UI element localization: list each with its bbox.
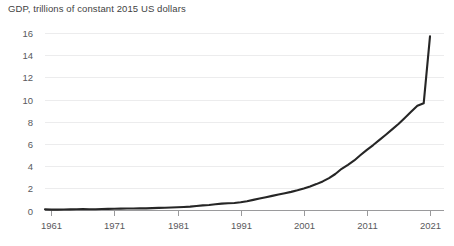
x-axis-tick-label: 2011	[357, 220, 377, 231]
y-axis-tick-label: 4	[28, 161, 33, 172]
x-axis-tick-label: 1991	[231, 220, 252, 231]
y-axis-tick-label: 6	[28, 139, 33, 150]
x-axis-tick-label: 1961	[41, 220, 62, 231]
y-axis-tick-label: 10	[22, 95, 33, 106]
y-axis-tick-label: 8	[28, 117, 33, 128]
gridlines	[45, 34, 444, 189]
y-axis-tick-label: 0	[28, 206, 33, 217]
x-axis-tick-label: 1981	[168, 220, 189, 231]
x-axis-tick-label: 1971	[104, 220, 125, 231]
chart-plot-area: 0246810121416 19611971198119912001201120…	[0, 0, 454, 246]
y-axis-tick-label: 12	[22, 72, 33, 83]
y-axis-tick-label: 16	[22, 28, 33, 39]
x-axis-tick-label: 2021	[420, 220, 441, 231]
y-axis-tick-label: 2	[28, 183, 33, 194]
y-axis-tick-labels: 0246810121416	[22, 28, 33, 217]
x-axis-tick-label: 2001	[294, 220, 315, 231]
gdp-line-chart: GDP, trillions of constant 2015 US dolla…	[0, 0, 454, 246]
x-axis-ticks: 1961197119811991200120112021	[41, 211, 441, 231]
y-axis-tick-label: 14	[22, 50, 33, 61]
